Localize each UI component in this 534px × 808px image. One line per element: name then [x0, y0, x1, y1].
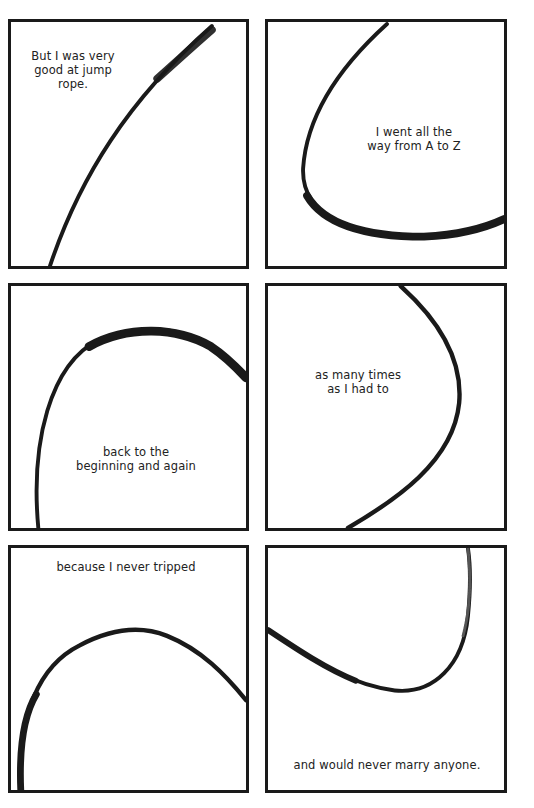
comic-panel-5: because I never tripped	[8, 545, 249, 793]
jump-rope-arc-drawing	[268, 286, 504, 528]
comic-panel-6: and would never marry anyone.	[265, 545, 507, 793]
jump-rope-arc-drawing	[11, 286, 246, 528]
panel-caption: I went all the way from A to Z	[364, 125, 464, 153]
jump-rope-arc-drawing	[268, 548, 504, 790]
jump-rope-arc-drawing	[11, 548, 246, 790]
panel-caption: because I never tripped	[41, 560, 211, 574]
comic-panel-1: But I was very good at jump rope.	[8, 19, 249, 269]
panel-caption: back to the beginning and again	[76, 445, 196, 473]
comic-panel-2: I went all the way from A to Z	[265, 19, 507, 269]
panel-caption: But I was very good at jump rope.	[23, 49, 123, 91]
panel-caption: as many times as I had to	[308, 368, 408, 396]
comic-panel-4: as many times as I had to	[265, 283, 507, 531]
comic-panel-3: back to the beginning and again	[8, 283, 249, 531]
panel-caption: and would never marry anyone.	[292, 758, 482, 772]
